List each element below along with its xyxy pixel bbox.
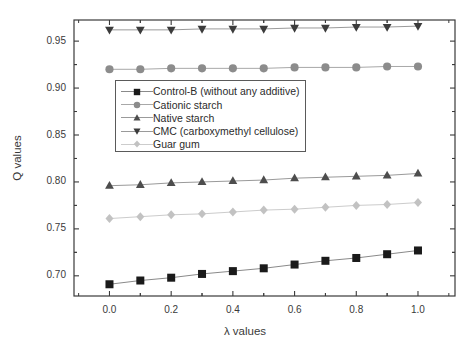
- legend-item: CMC (carboxymethyl cellulose): [116, 125, 305, 138]
- x-axis-title: λ values: [190, 325, 300, 337]
- legend-marker-triangle-up-icon: [121, 112, 153, 124]
- series-0: [105, 246, 422, 288]
- data-point: [414, 62, 422, 70]
- x-tick-label: 1.0: [401, 304, 435, 315]
- data-point: [352, 201, 360, 210]
- legend-label: Control-B (without any additive): [153, 86, 299, 97]
- data-point: [198, 270, 206, 278]
- legend-label: Cationic starch: [153, 100, 222, 111]
- data-point: [291, 205, 299, 214]
- data-point: [105, 65, 113, 73]
- data-point: [383, 171, 392, 179]
- data-point: [167, 274, 175, 282]
- data-point: [167, 178, 176, 186]
- data-point: [290, 25, 299, 33]
- data-point: [136, 277, 144, 285]
- data-point: [321, 203, 329, 212]
- data-point: [136, 212, 144, 221]
- data-point: [290, 63, 298, 71]
- legend-item: Control-B (without any additive): [116, 85, 305, 98]
- data-point: [198, 64, 206, 72]
- data-point: [167, 27, 176, 35]
- x-tick-label: 0.8: [339, 304, 373, 315]
- data-point: [136, 27, 145, 35]
- y-tick-label: 0.90: [32, 82, 66, 93]
- x-tick-label: 0.4: [216, 304, 250, 315]
- legend-label: Native starch: [153, 113, 214, 124]
- data-point: [383, 250, 391, 258]
- legend-marker-triangle-down-icon: [121, 125, 153, 137]
- data-point: [198, 177, 207, 185]
- data-point: [228, 26, 237, 34]
- data-point: [383, 62, 391, 70]
- data-point: [290, 173, 299, 181]
- data-point: [259, 175, 268, 183]
- legend-label: Guar gum: [153, 139, 200, 150]
- data-point: [105, 214, 113, 223]
- data-point: [228, 176, 237, 184]
- axis-ticks: [74, 20, 455, 296]
- y-tick-label: 0.70: [32, 269, 66, 280]
- legend-marker-diamond-icon: [121, 138, 153, 150]
- series-3: [105, 23, 422, 35]
- data-point: [167, 64, 175, 72]
- legend-marker-square-icon: [121, 86, 153, 98]
- data-point: [229, 207, 237, 216]
- data-point: [321, 257, 329, 265]
- data-point: [414, 169, 423, 177]
- chart-figure: Q values λ values 0.700.750.800.850.900.…: [0, 0, 461, 350]
- data-point: [414, 23, 423, 31]
- data-point: [136, 180, 145, 188]
- data-point: [321, 63, 329, 71]
- y-tick-label: 0.80: [32, 175, 66, 186]
- plot-frame: [74, 20, 455, 296]
- data-point: [260, 264, 268, 272]
- data-point: [352, 172, 361, 180]
- data-point: [352, 24, 361, 32]
- series-2: [105, 169, 422, 189]
- data-point: [198, 209, 206, 218]
- y-axis-title: Q values: [11, 113, 23, 203]
- legend-item: Native starch: [116, 111, 305, 124]
- y-tick-label: 0.85: [32, 129, 66, 140]
- data-series-group: [105, 23, 422, 288]
- data-point: [321, 173, 330, 181]
- data-point: [259, 26, 268, 34]
- data-point: [414, 246, 422, 254]
- data-point: [105, 280, 113, 288]
- legend-item: Cationic starch: [116, 98, 305, 111]
- data-point: [291, 261, 299, 269]
- y-tick-label: 0.95: [32, 35, 66, 46]
- data-point: [260, 206, 268, 215]
- data-point: [352, 254, 360, 262]
- data-point: [167, 210, 175, 219]
- x-tick-label: 0.6: [278, 304, 312, 315]
- data-point: [414, 198, 422, 207]
- data-point: [229, 267, 237, 275]
- series-1: [105, 62, 422, 73]
- chart-legend: Control-B (without any additive)Cationic…: [115, 80, 306, 152]
- x-tick-label: 0.2: [154, 304, 188, 315]
- y-tick-label: 0.75: [32, 222, 66, 233]
- data-point: [321, 25, 330, 33]
- data-point: [352, 63, 360, 71]
- data-point: [260, 64, 268, 72]
- legend-item: Guar gum: [116, 138, 305, 151]
- chart-plot-area: [0, 0, 461, 350]
- data-point: [136, 65, 144, 73]
- legend-marker-circle-icon: [121, 99, 153, 111]
- data-point: [229, 64, 237, 72]
- data-point: [383, 200, 391, 209]
- data-point: [105, 181, 114, 189]
- data-point: [198, 26, 207, 34]
- series-4: [105, 198, 422, 223]
- data-point: [105, 27, 114, 35]
- x-tick-label: 0.0: [92, 304, 126, 315]
- legend-label: CMC (carboxymethyl cellulose): [153, 126, 298, 137]
- data-point: [383, 24, 392, 32]
